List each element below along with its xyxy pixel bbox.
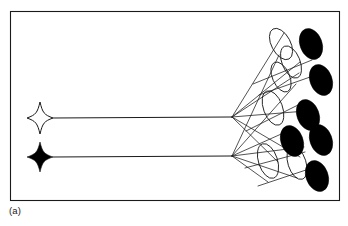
figure-background (0, 0, 348, 226)
figure-diagram-canvas (0, 0, 348, 226)
figure-caption: (a) (9, 205, 21, 216)
figure-panel: (a) (0, 0, 348, 226)
